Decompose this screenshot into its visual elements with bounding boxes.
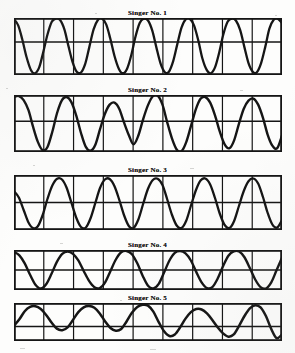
waveform-trace-2 [14, 95, 282, 152]
panel-title-singer-1: Singer No. 1 [0, 8, 295, 18]
waveform-svg-1 [14, 18, 282, 75]
oscillogram-panel-2: Singer No. 2 [0, 85, 295, 152]
waveform-plot-5 [14, 303, 282, 341]
oscillogram-panel-4: Singer No. 4 [0, 240, 295, 290]
oscillogram-panel-3: Singer No. 3 [0, 165, 295, 230]
waveform-svg-3 [14, 175, 282, 230]
waveform-svg-2 [14, 95, 282, 152]
oscillogram-panel-1: Singer No. 1 [0, 8, 295, 75]
waveform-trace-3 [14, 178, 282, 228]
panel-title-singer-4: Singer No. 4 [0, 240, 295, 250]
oscillogram-figure: Singer No. 1Singer No. 2Singer No. 3Sing… [0, 0, 295, 353]
panel-title-singer-5: Singer No. 5 [0, 293, 295, 303]
waveform-trace-5 [14, 305, 282, 339]
waveform-trace-1 [14, 18, 282, 73]
panel-frame-1 [15, 19, 281, 74]
oscillogram-panel-5: Singer No. 5 [0, 293, 295, 341]
waveform-svg-5 [14, 303, 282, 341]
panel-title-singer-3: Singer No. 3 [0, 165, 295, 175]
grid-lines-1 [15, 19, 281, 74]
grid-lines-4 [15, 251, 281, 289]
waveform-plot-3 [14, 175, 282, 230]
waveform-svg-4 [14, 250, 282, 290]
waveform-plot-4 [14, 250, 282, 290]
waveform-plot-2 [14, 95, 282, 152]
waveform-plot-1 [14, 18, 282, 75]
panel-title-singer-2: Singer No. 2 [0, 85, 295, 95]
